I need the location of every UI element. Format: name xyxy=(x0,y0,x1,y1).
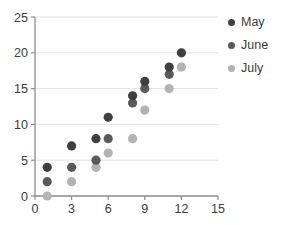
data-point xyxy=(140,77,149,86)
data-point xyxy=(104,134,113,143)
y-tick-label-10: 10 xyxy=(14,118,28,132)
scatter-chart: 0510152025 03691215 MayJuneJuly xyxy=(0,0,288,225)
y-tick-label-15: 15 xyxy=(14,82,28,96)
data-point xyxy=(43,177,52,186)
y-tick-label-20: 20 xyxy=(14,46,28,60)
chart-legend: MayJuneJuly xyxy=(228,12,286,81)
series-july xyxy=(43,63,186,201)
data-point xyxy=(91,134,100,143)
y-tick-label-5: 5 xyxy=(21,154,28,168)
legend-marker-icon xyxy=(228,19,235,26)
data-point xyxy=(140,105,149,114)
data-point xyxy=(128,134,137,143)
series-june xyxy=(43,70,174,187)
x-tick-label-12: 12 xyxy=(174,202,188,216)
data-point xyxy=(43,191,52,200)
data-point xyxy=(67,141,76,150)
data-point xyxy=(165,84,174,93)
x-tick-label-6: 6 xyxy=(105,202,112,216)
data-point xyxy=(91,156,100,165)
legend-marker-icon xyxy=(228,65,235,72)
legend-item-july[interactable]: July xyxy=(228,58,286,78)
legend-item-may[interactable]: May xyxy=(228,12,286,32)
gridlines xyxy=(35,17,218,196)
y-axis-tick-labels: 0510152025 xyxy=(14,11,28,204)
x-tick-label-9: 9 xyxy=(141,202,148,216)
legend-marker-icon xyxy=(228,42,235,49)
legend-item-label: June xyxy=(241,39,268,52)
data-point xyxy=(104,113,113,122)
data-point xyxy=(177,63,186,72)
x-tick-label-0: 0 xyxy=(32,202,39,216)
data-point xyxy=(128,91,137,100)
data-point xyxy=(165,63,174,72)
legend-item-label: July xyxy=(241,62,263,75)
data-point xyxy=(43,163,52,172)
legend-item-june[interactable]: June xyxy=(228,35,286,55)
y-tick-label-25: 25 xyxy=(14,11,28,25)
legend-item-label: May xyxy=(241,16,265,29)
series-may xyxy=(43,48,186,172)
x-tick-label-3: 3 xyxy=(68,202,75,216)
data-point xyxy=(177,48,186,57)
y-tick-label-0: 0 xyxy=(21,190,28,204)
x-axis-tick-labels: 03691215 xyxy=(32,202,225,216)
data-point xyxy=(104,148,113,157)
data-point xyxy=(67,177,76,186)
x-tick-label-15: 15 xyxy=(211,202,225,216)
data-point xyxy=(67,163,76,172)
axes xyxy=(31,17,218,200)
